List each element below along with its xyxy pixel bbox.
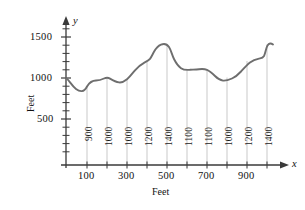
- drop-label-100: 900: [84, 126, 94, 141]
- y-axis-name-label: y: [73, 16, 78, 27]
- y-tick-label-1500: 1500: [30, 32, 52, 43]
- drop-label-300: 1000: [124, 127, 134, 146]
- drop-label-700: 1100: [204, 127, 214, 146]
- y-tick-label-1000: 1000: [30, 73, 52, 84]
- drop-label-200: 1000: [104, 127, 114, 146]
- drop-label-600: 1100: [184, 127, 194, 146]
- y-axis-unit-label: Feet: [26, 95, 36, 112]
- drop-label-800: 1000: [224, 127, 234, 146]
- drop-label-900: 1200: [244, 127, 254, 146]
- axes-group: [61, 22, 283, 168]
- x-tick-label-500: 500: [158, 171, 175, 182]
- x-tick-label-900: 900: [238, 171, 255, 182]
- x-axis-name-label: x: [292, 159, 297, 170]
- x-axis-unit-label: Feet: [152, 187, 169, 197]
- x-axis-arrowhead: [280, 161, 289, 168]
- drop-label-500: 1400: [164, 127, 174, 146]
- drop-label-400: 1200: [144, 127, 154, 146]
- drop-label-1000: 1400: [264, 127, 274, 146]
- elevation-curve: [66, 43, 273, 91]
- x-tick-label-300: 300: [118, 171, 135, 182]
- x-tick-label-700: 700: [198, 171, 215, 182]
- x-tick-label-100: 100: [78, 171, 95, 182]
- y-axis-arrowhead: [62, 16, 69, 25]
- y-tick-label-500: 500: [37, 114, 54, 125]
- elevation-profile-figure: 1500 1000 500 y x Feet 100 300 500 700 9…: [0, 0, 305, 210]
